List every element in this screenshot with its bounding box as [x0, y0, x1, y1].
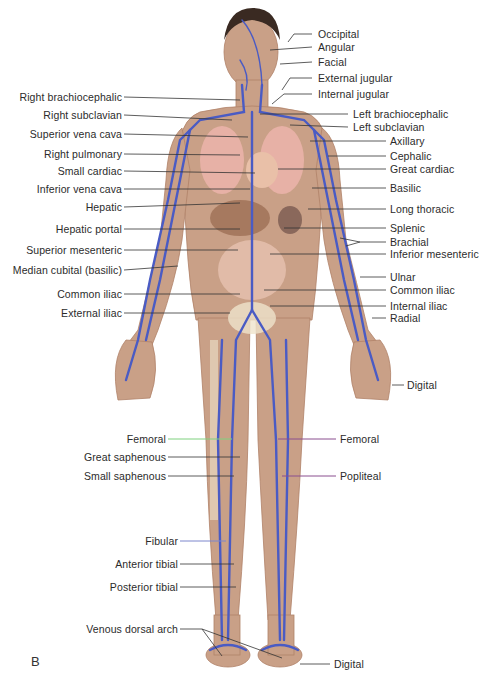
- label-facial: Facial: [318, 56, 347, 68]
- label-superior-vena-cava: Superior vena cava: [30, 128, 122, 140]
- label-digital-hand: Digital: [407, 379, 437, 391]
- label-internal-iliac: Internal iliac: [390, 300, 447, 312]
- venous-system-diagram: Right brachiocephalic Right subclavian S…: [0, 0, 494, 679]
- label-common-iliac-left: Common iliac: [57, 288, 122, 300]
- label-external-jugular: External jugular: [318, 72, 393, 84]
- label-brachial: Brachial: [390, 236, 429, 248]
- label-popliteal: Popliteal: [340, 470, 381, 482]
- label-right-subclavian: Right subclavian: [43, 109, 122, 121]
- label-anterior-tibial: Anterior tibial: [115, 558, 178, 570]
- label-small-saphenous: Small saphenous: [84, 470, 166, 482]
- label-femoral-left: Femoral: [127, 433, 166, 445]
- label-cephalic: Cephalic: [390, 150, 432, 162]
- label-left-brachiocephalic: Left brachiocephalic: [353, 108, 448, 120]
- label-internal-jugular: Internal jugular: [318, 88, 389, 100]
- liver: [210, 200, 270, 236]
- label-inferior-mesenteric: Inferior mesenteric: [390, 248, 479, 260]
- label-femoral-right: Femoral: [340, 433, 379, 445]
- label-splenic: Splenic: [390, 222, 425, 234]
- label-common-iliac-right: Common iliac: [390, 284, 455, 296]
- label-inferior-vena-cava: Inferior vena cava: [37, 183, 122, 195]
- label-posterior-tibial: Posterior tibial: [110, 581, 178, 593]
- label-axillary: Axillary: [390, 135, 425, 147]
- label-ulnar: Ulnar: [390, 271, 416, 283]
- label-fibular: Fibular: [145, 535, 178, 547]
- label-small-cardiac: Small cardiac: [58, 165, 122, 177]
- label-venous-dorsal-arch: Venous dorsal arch: [86, 623, 178, 635]
- label-hepatic: Hepatic: [86, 201, 122, 213]
- panel-letter: B: [31, 654, 40, 669]
- veins: [126, 20, 378, 650]
- label-great-cardiac: Great cardiac: [390, 163, 454, 175]
- label-right-pulmonary: Right pulmonary: [44, 148, 122, 160]
- label-occipital: Occipital: [318, 28, 359, 40]
- label-external-iliac: External iliac: [61, 307, 122, 319]
- label-great-saphenous: Great saphenous: [84, 451, 166, 463]
- label-hepatic-portal: Hepatic portal: [56, 223, 122, 235]
- label-radial: Radial: [390, 312, 420, 324]
- label-right-brachiocephalic: Right brachiocephalic: [20, 91, 123, 103]
- label-left-subclavian: Left subclavian: [353, 121, 425, 133]
- label-superior-mesenteric: Superior mesenteric: [26, 244, 122, 256]
- label-median-cubital: Median cubital (basilic): [13, 264, 122, 276]
- label-angular: Angular: [318, 41, 355, 53]
- right-femur: [210, 340, 218, 520]
- label-basilic: Basilic: [390, 182, 421, 194]
- label-digital-foot: Digital: [334, 658, 364, 670]
- spleen: [278, 206, 302, 234]
- label-long-thoracic: Long thoracic: [390, 203, 454, 215]
